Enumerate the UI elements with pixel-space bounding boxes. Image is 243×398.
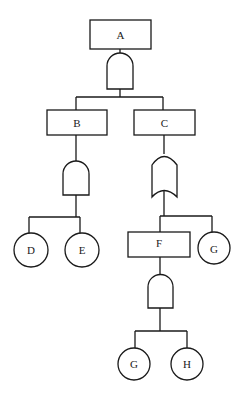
- basic-event-d: D: [14, 233, 48, 267]
- event-f: F: [128, 232, 190, 257]
- event-f-label: F: [156, 237, 162, 249]
- basic-event-g-right: G: [198, 232, 230, 264]
- event-c-label: C: [161, 117, 168, 129]
- event-d-label: D: [27, 244, 35, 256]
- event-b: B: [47, 110, 107, 135]
- basic-event-h: H: [171, 348, 203, 380]
- basic-event-g-bottom: G: [118, 348, 150, 380]
- and-gate-icon-b: [63, 161, 89, 195]
- and-gate-icon-f: [148, 275, 173, 309]
- event-g-label: G: [210, 243, 218, 255]
- event-a-label: A: [117, 29, 125, 41]
- event-b-label: B: [73, 117, 80, 129]
- event-a: A: [90, 20, 151, 49]
- event-h-label: H: [183, 358, 191, 370]
- basic-event-e: E: [65, 233, 99, 267]
- event-c: C: [134, 110, 195, 135]
- event-g2-label: G: [130, 358, 138, 370]
- event-e-label: E: [79, 244, 86, 256]
- fault-tree-diagram: A B C D E F G: [0, 0, 243, 398]
- and-gate-icon-a: [107, 53, 133, 89]
- or-gate-icon-c: [152, 157, 177, 198]
